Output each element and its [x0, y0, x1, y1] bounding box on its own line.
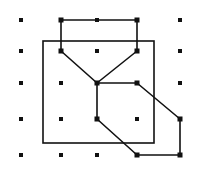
grid-dot — [178, 18, 182, 22]
grid-dot — [95, 49, 99, 53]
grid-dot — [19, 18, 23, 22]
vertex-marker — [178, 153, 183, 158]
square-outline — [43, 41, 154, 143]
grid-dot — [19, 81, 23, 85]
grid-dot — [135, 117, 139, 121]
vertex-marker — [135, 81, 140, 86]
vertex-marker — [135, 153, 140, 158]
vertex-marker — [178, 117, 183, 122]
dot-grid-diagram — [0, 0, 198, 170]
vertex-marker — [135, 49, 140, 54]
grid-dot — [178, 49, 182, 53]
vertex-marker — [135, 18, 140, 23]
vertex-marker — [59, 18, 64, 23]
grid-dot — [59, 81, 63, 85]
vertex-marker — [59, 49, 64, 54]
vertex-markers — [59, 18, 183, 158]
vertex-marker — [95, 81, 100, 86]
grid-dot — [59, 117, 63, 121]
grid-dot — [178, 81, 182, 85]
grid-dot — [19, 49, 23, 53]
grid-dot — [19, 117, 23, 121]
vertex-marker — [95, 117, 100, 122]
grid-dot — [19, 153, 23, 157]
grid-dot — [95, 153, 99, 157]
grid-dot — [59, 153, 63, 157]
